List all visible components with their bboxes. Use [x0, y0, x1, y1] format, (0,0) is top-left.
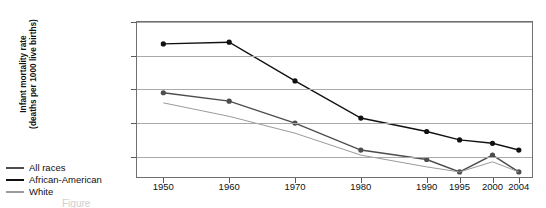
legend-item: White: [6, 186, 102, 198]
x-tick-label: 2004: [508, 181, 529, 192]
data-point: [358, 147, 363, 152]
data-point: [292, 78, 297, 83]
series-line: [163, 42, 518, 150]
gridline: [137, 157, 532, 158]
x-tick-label: 1995: [449, 181, 470, 192]
gridline: [137, 89, 532, 90]
series-line: [163, 93, 518, 172]
figure-container: Infant mortality rate (deaths per 1000 l…: [0, 0, 546, 208]
x-tick-label: 1950: [153, 181, 174, 192]
data-point: [358, 115, 363, 120]
data-point: [516, 147, 521, 152]
data-point: [424, 129, 429, 134]
data-point: [161, 90, 166, 95]
legend-item: All races: [6, 162, 102, 174]
data-point: [457, 137, 462, 142]
legend-item: African-American: [6, 174, 102, 186]
legend-item-label: African-American: [29, 174, 102, 186]
gridline: [137, 22, 532, 23]
gridline: [137, 123, 532, 124]
chart-legend: All racesAfrican-AmericanWhite: [6, 162, 102, 198]
plot-area: [136, 21, 533, 178]
gridline: [137, 56, 532, 57]
legend-item-label: White: [29, 186, 53, 198]
series-white: [163, 103, 518, 172]
data-point: [161, 41, 166, 46]
legend-line-icon: [6, 191, 24, 193]
series-line: [163, 103, 518, 172]
series-all-races: [161, 90, 522, 174]
data-point: [227, 99, 232, 104]
legend-line-icon: [6, 179, 24, 181]
x-tick-label: 1990: [416, 181, 437, 192]
x-tick-label: 1960: [219, 181, 240, 192]
y-axis-title-line2: (deaths per 1000 live births): [28, 0, 38, 154]
x-tick-label: 1980: [350, 181, 371, 192]
legend-line-icon: [6, 167, 24, 169]
data-point: [227, 40, 232, 45]
figure-caption: Figure: [62, 198, 90, 208]
y-axis-title-line1: Infant mortality rate: [18, 0, 28, 154]
data-point: [490, 141, 495, 146]
x-tick-label: 1970: [284, 181, 305, 192]
y-axis-title: Infant mortality rate (deaths per 1000 l…: [18, 0, 38, 154]
legend-item-label: All races: [29, 162, 65, 174]
series-layer: [137, 22, 532, 177]
x-tick-label: 2000: [482, 181, 503, 192]
